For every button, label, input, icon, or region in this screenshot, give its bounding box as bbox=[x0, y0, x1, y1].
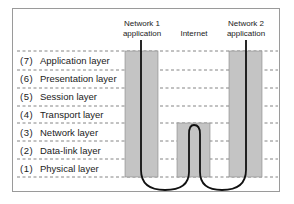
layer-label-2: (2)Data-link layer bbox=[20, 145, 101, 156]
layer-label-6: (6)Presentation layer bbox=[20, 73, 117, 84]
layer-label-3: (3)Network layer bbox=[20, 127, 98, 138]
layer-label-1: (1)Physical layer bbox=[20, 163, 99, 174]
column-label-internet: Internet bbox=[168, 29, 220, 39]
column-label-network1: Network 1application bbox=[116, 19, 168, 39]
layer-label-4: (4)Transport layer bbox=[20, 109, 104, 120]
layer-label-7: (7)Application layer bbox=[20, 55, 110, 66]
column-label-network2: Network 2application bbox=[220, 19, 272, 39]
internet-stack bbox=[177, 123, 210, 177]
layer-label-5: (5)Session layer bbox=[20, 91, 97, 102]
